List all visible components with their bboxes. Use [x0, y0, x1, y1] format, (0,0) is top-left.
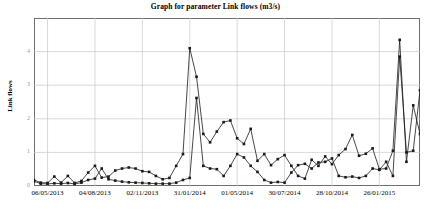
- data-point-marker: [398, 39, 401, 42]
- data-point-marker: [263, 179, 266, 182]
- data-point-marker: [209, 167, 212, 170]
- data-point-marker: [392, 149, 395, 152]
- data-point-marker: [229, 119, 232, 122]
- data-point-marker: [358, 177, 361, 180]
- data-point-marker: [34, 180, 35, 183]
- data-point-marker: [87, 179, 90, 182]
- data-point-marker: [148, 182, 151, 185]
- y-tick-label: 4: [0, 48, 30, 54]
- data-point-marker: [249, 165, 252, 168]
- data-point-marker: [67, 175, 70, 178]
- data-point-marker: [371, 147, 374, 150]
- data-point-marker: [134, 167, 137, 170]
- series-line-2: [34, 57, 420, 184]
- data-point-marker: [229, 165, 232, 168]
- data-point-marker: [121, 180, 124, 183]
- data-point-marker: [358, 154, 361, 157]
- data-point-marker: [276, 181, 279, 184]
- data-point-marker: [128, 181, 131, 184]
- data-point-marker: [290, 171, 293, 174]
- data-point-marker: [175, 181, 178, 184]
- data-point-marker: [385, 161, 388, 164]
- data-point-marker: [310, 158, 313, 161]
- data-point-marker: [310, 167, 313, 170]
- data-point-marker: [128, 166, 131, 169]
- data-point-marker: [53, 175, 56, 178]
- data-point-marker: [222, 121, 225, 124]
- data-point-marker: [46, 183, 49, 186]
- data-point-marker: [297, 175, 300, 178]
- data-point-marker: [317, 161, 320, 164]
- data-point-marker: [168, 177, 171, 180]
- series-line-1: [34, 40, 420, 183]
- data-point-marker: [290, 165, 293, 168]
- data-point-marker: [39, 182, 42, 185]
- data-point-marker: [331, 163, 334, 166]
- data-point-marker: [324, 161, 327, 164]
- data-point-marker: [222, 175, 225, 178]
- data-point-marker: [195, 76, 198, 79]
- data-point-marker: [351, 175, 354, 178]
- data-point-marker: [236, 137, 239, 140]
- data-point-marker: [155, 175, 158, 178]
- data-point-marker: [107, 178, 110, 181]
- data-point-marker: [141, 182, 144, 185]
- data-point-marker: [344, 148, 347, 151]
- data-point-marker: [371, 167, 374, 170]
- data-point-marker: [243, 156, 246, 159]
- data-point-marker: [60, 182, 63, 185]
- x-tick-label: 26/01/2015: [349, 189, 409, 197]
- data-point-marker: [283, 154, 286, 157]
- data-point-marker: [73, 183, 76, 186]
- plot-svg: [34, 18, 420, 186]
- data-point-marker: [94, 165, 97, 168]
- data-point-marker: [188, 47, 191, 50]
- data-point-marker: [365, 175, 368, 178]
- data-point-marker: [419, 89, 420, 92]
- data-point-marker: [195, 97, 198, 100]
- data-point-marker: [304, 163, 307, 166]
- data-point-marker: [324, 155, 327, 158]
- data-point-marker: [283, 181, 286, 184]
- data-point-marker: [114, 179, 117, 182]
- data-point-marker: [412, 104, 415, 107]
- data-point-marker: [134, 181, 137, 184]
- y-tick-label: 1: [0, 148, 30, 154]
- data-point-marker: [297, 164, 300, 167]
- data-point-marker: [317, 165, 320, 168]
- chart-container: Graph for parameter Link flows (m3/s) Li…: [0, 0, 431, 216]
- data-point-marker: [100, 167, 103, 170]
- data-point-marker: [412, 149, 415, 152]
- data-point-marker: [236, 153, 239, 156]
- data-point-marker: [398, 55, 401, 58]
- data-point-marker: [385, 167, 388, 170]
- data-point-marker: [202, 133, 205, 136]
- data-point-marker: [270, 164, 273, 167]
- data-point-marker: [161, 182, 164, 185]
- data-point-marker: [188, 177, 191, 180]
- data-point-marker: [168, 182, 171, 185]
- data-point-marker: [182, 179, 185, 182]
- data-point-marker: [114, 169, 117, 172]
- data-point-marker: [304, 177, 307, 180]
- data-point-marker: [121, 167, 124, 170]
- data-point-marker: [337, 154, 340, 157]
- data-point-marker: [87, 171, 90, 174]
- data-point-marker: [256, 171, 259, 174]
- data-point-marker: [270, 181, 273, 184]
- data-point-marker: [53, 182, 56, 185]
- data-point-marker: [202, 165, 205, 168]
- data-point-marker: [351, 134, 354, 137]
- data-point-marker: [67, 182, 70, 185]
- data-point-marker: [378, 169, 381, 172]
- y-tick-label: 2: [0, 115, 30, 121]
- y-tick-label: 3: [0, 81, 30, 87]
- data-point-marker: [209, 141, 212, 144]
- data-point-marker: [405, 151, 408, 154]
- data-point-marker: [419, 133, 420, 136]
- data-point-marker: [216, 130, 219, 133]
- data-point-marker: [392, 175, 395, 178]
- data-point-marker: [365, 152, 368, 155]
- data-point-marker: [216, 168, 219, 171]
- data-point-marker: [249, 128, 252, 131]
